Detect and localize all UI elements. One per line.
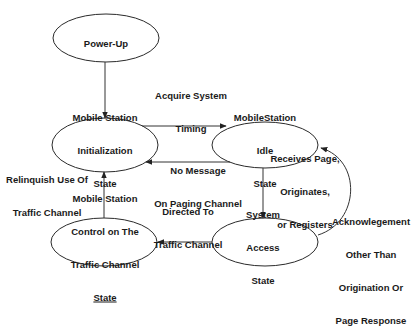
transition-label-line: Traffic Channel	[154, 239, 223, 250]
transition-label-acquire: Acquire System Timing	[155, 68, 227, 145]
transition-label-line: Timing	[155, 123, 227, 134]
state-label-line: Traffic Channel	[71, 259, 140, 270]
transition-label-line: Other Than	[332, 249, 410, 260]
transition-label-line: Relinquish Use Of	[6, 174, 88, 185]
transition-label-line: Originates,	[270, 186, 339, 197]
transition-label-relinquish: Relinquish Use Of Traffic Channel	[6, 152, 88, 229]
transition-label-line: Receives Page,	[270, 153, 339, 164]
transition-label-line: Traffic Channel	[6, 207, 88, 218]
transition-label-directed: Directed To Traffic Channel	[154, 184, 223, 261]
transition-label-receives: Receives Page, Originates, or Registers	[270, 131, 339, 241]
state-label-line: Power-Up	[84, 38, 128, 49]
state-label-line: State	[71, 292, 140, 303]
transition-label-line: Page Response	[332, 315, 410, 326]
transition-label-line: Acknowlegement	[332, 216, 410, 227]
state-label-power-up: Power-Up	[84, 16, 128, 60]
transition-label-line: Directed To	[154, 206, 223, 217]
state-label-line: Mobile Station	[73, 112, 138, 123]
state-label-line: MobileStation	[234, 112, 296, 123]
transition-label-ack: Acknowlegement Other Than Origination Or…	[332, 194, 410, 330]
transition-label-line: Acquire System	[155, 90, 227, 101]
transition-label-line: Origination Or	[332, 282, 410, 293]
transition-label-line: or Registers	[270, 219, 339, 230]
state-label-line: Access	[246, 242, 280, 253]
transition-label-line: No Message	[154, 165, 242, 176]
state-label-line: State	[246, 275, 280, 286]
